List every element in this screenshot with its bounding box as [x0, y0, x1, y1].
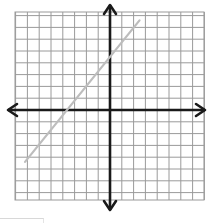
axes	[8, 5, 205, 210]
footer-box	[0, 218, 44, 223]
plotted-line	[25, 20, 139, 162]
series-line	[25, 20, 139, 162]
coordinate-plane	[0, 0, 215, 223]
